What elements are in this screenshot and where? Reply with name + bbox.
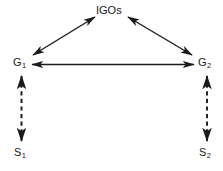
- diagram-canvas: IGOs G1 G2 S1 S2: [0, 0, 223, 171]
- node-label-g1: G1: [13, 57, 26, 68]
- edge-igos-g2: [128, 17, 192, 55]
- node-label-s1: S1: [14, 147, 26, 158]
- node-subscript-s2: 2: [207, 151, 211, 160]
- node-label-igos: IGOs: [96, 5, 122, 16]
- node-subscript-s1: 1: [22, 151, 26, 160]
- node-subscript-g2: 2: [207, 61, 211, 70]
- node-label-s2: S2: [199, 147, 211, 158]
- edge-g1-igos: [33, 17, 95, 55]
- node-label-g2: G2: [198, 57, 211, 68]
- node-subscript-g1: 1: [22, 61, 26, 70]
- diagram-edges: [0, 0, 223, 171]
